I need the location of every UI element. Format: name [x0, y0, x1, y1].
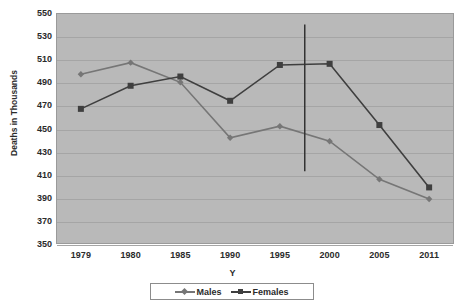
legend-item-females[interactable]: Females	[231, 287, 288, 297]
x-axis-tick-label: 1985	[155, 250, 205, 260]
y-axis-tick-label: 390	[6, 194, 52, 203]
x-axis-tick-label: 2005	[354, 250, 404, 260]
y-axis-tick-label: 550	[6, 9, 52, 18]
y-axis-title: Deaths in Thousands	[9, 53, 19, 173]
y-axis-tick-label: 350	[6, 240, 52, 249]
gridline	[57, 130, 453, 131]
y-axis-tick-label: 530	[6, 32, 52, 41]
y-axis-tick-label: 370	[6, 217, 52, 226]
y-axis-ticks: 550530510490470450430410390370350	[0, 0, 52, 260]
gridline	[57, 153, 453, 154]
x-axis-tick-label: 1980	[106, 250, 156, 260]
gridline	[57, 83, 453, 84]
chart-legend: MalesFemales	[150, 283, 314, 300]
x-axis-tick-label: 1990	[205, 250, 255, 260]
gridline	[57, 245, 453, 246]
diamond-marker-icon	[175, 287, 195, 296]
legend-item-males[interactable]: Males	[175, 287, 221, 297]
x-axis-tick-label: 1995	[255, 250, 305, 260]
legend-label: Females	[252, 287, 288, 297]
gridline	[57, 176, 453, 177]
x-axis-tick-label: 2011	[404, 250, 454, 260]
plot-area	[56, 13, 454, 244]
square-marker-icon	[231, 287, 251, 296]
line-chart: 550530510490470450430410390370350 Deaths…	[0, 0, 465, 307]
gridline	[57, 60, 453, 61]
gridline	[57, 37, 453, 38]
x-axis-tick-label: 2000	[305, 250, 355, 260]
legend-label: Males	[196, 287, 221, 297]
gridline	[57, 222, 453, 223]
gridline	[57, 199, 453, 200]
gridline	[57, 106, 453, 107]
x-axis-title: Y	[0, 268, 465, 278]
x-axis-tick-label: 1979	[56, 250, 106, 260]
